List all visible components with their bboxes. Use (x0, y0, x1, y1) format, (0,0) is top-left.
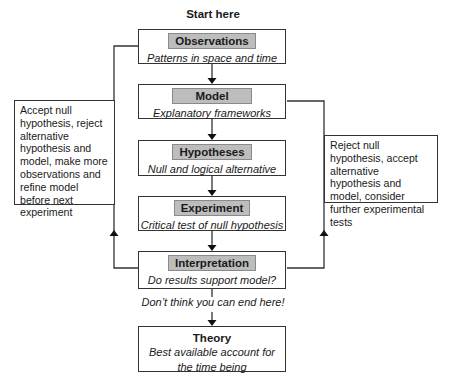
experiment-title: Experiment (174, 200, 251, 216)
observations-subtitle: Patterns in space and time (139, 51, 285, 65)
model-subtitle: Explanatory frameworks (139, 106, 285, 120)
hypotheses-title: Hypotheses (172, 144, 251, 160)
experiment-subtitle: Critical test of null hypothesis (139, 218, 285, 232)
observations-title: Observations (168, 33, 256, 49)
right-loop-note: Reject null hypothesis, accept alternati… (324, 135, 438, 203)
theory-subtitle-line1: Best available account for (139, 346, 285, 360)
model-title: Model (172, 88, 251, 104)
left-loop-note: Accept null hypothesis, reject alternati… (14, 100, 115, 205)
theory-subtitle-line2: the time being (139, 361, 285, 375)
hypotheses-box: Hypotheses Null and logical alternative (138, 140, 286, 176)
observations-box: Observations Patterns in space and time (138, 29, 286, 64)
end-warning-text: Don’t think you can end here! (138, 296, 288, 308)
interpretation-box: Interpretation Do results support model? (138, 251, 286, 289)
interpretation-subtitle: Do results support model? (139, 273, 285, 287)
hypotheses-subtitle: Null and logical alternative (139, 162, 285, 176)
theory-title: Theory (139, 331, 285, 345)
model-box: Model Explanatory frameworks (138, 84, 286, 119)
theory-box: Theory Best available account for the ti… (138, 326, 286, 372)
interpretation-title: Interpretation (168, 255, 256, 271)
experiment-box: Experiment Critical test of null hypothe… (138, 196, 286, 231)
start-here-label: Start here (138, 8, 288, 20)
